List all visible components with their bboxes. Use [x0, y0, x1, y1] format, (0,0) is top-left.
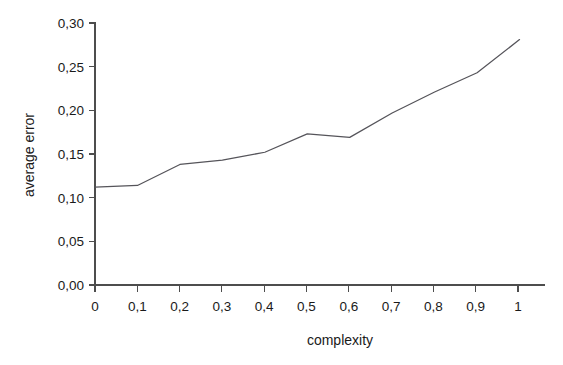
y-tick-label-2: 0,10: [58, 191, 84, 206]
x-axis-title: complexity: [307, 332, 373, 348]
x-axis-tick-labels: 0 0,1 0,2 0,3 0,4 0,5 0,6 0,7 0,8 0,9 1: [91, 299, 522, 314]
y-tick-label-1: 0,05: [58, 234, 84, 249]
data-series-average-error: [95, 40, 520, 188]
line-chart-plot: 0,00 0,05 0,10 0,15 0,20 0,25 0,30 0 0,1: [0, 0, 563, 365]
y-tick-label-3: 0,15: [58, 147, 84, 162]
y-axis-tick-labels: 0,00 0,05 0,10 0,15 0,20 0,25 0,30: [58, 16, 84, 293]
x-tick-label-3: 0,3: [213, 299, 232, 314]
x-tick-label-4: 0,4: [255, 299, 274, 314]
chart-figure: 0,00 0,05 0,10 0,15 0,20 0,25 0,30 0 0,1: [0, 0, 563, 365]
x-tick-label-5: 0,5: [297, 299, 316, 314]
y-tick-label-0: 0,00: [58, 278, 84, 293]
x-tick-label-8: 0,8: [424, 299, 443, 314]
y-axis-title: average error: [21, 113, 37, 197]
y-axis-ticks: [89, 23, 95, 285]
x-tick-label-2: 0,2: [170, 299, 189, 314]
x-tick-label-0: 0: [91, 299, 99, 314]
x-axis-ticks: [95, 285, 518, 292]
y-tick-label-5: 0,25: [58, 60, 84, 75]
x-tick-label-10: 1: [514, 299, 522, 314]
x-tick-label-7: 0,7: [382, 299, 401, 314]
x-tick-label-1: 0,1: [128, 299, 147, 314]
x-tick-label-9: 0,9: [466, 299, 485, 314]
y-tick-label-4: 0,20: [58, 103, 84, 118]
y-tick-label-6: 0,30: [58, 16, 84, 31]
x-tick-label-6: 0,6: [339, 299, 358, 314]
